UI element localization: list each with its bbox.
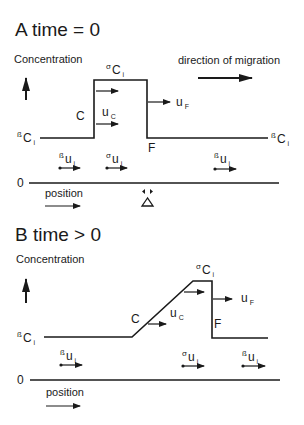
panel-b-uf-label: uF — [241, 292, 254, 304]
panel-a-alpha-ui-label: σui — [106, 153, 122, 165]
panel-b-alpha-ci-label: σCi — [196, 264, 214, 276]
panel-a-x-axis-label: position — [45, 188, 83, 199]
panel-b-c-label: C — [131, 313, 140, 325]
panel-a-zero-label: 0 — [17, 177, 24, 189]
panel-a-f-label: F — [148, 142, 155, 154]
panel-b-zero-label: 0 — [17, 374, 24, 386]
panel-a-uc-label: uC — [102, 106, 116, 118]
panel-a-alpha-ci-label: σCi — [106, 64, 124, 76]
panel-b-y-axis-label: Concentration — [16, 254, 85, 265]
boundary-triangle — [142, 198, 153, 206]
panel-b-uc-label: uC — [170, 307, 184, 319]
panel-b-title: B time > 0 — [15, 225, 101, 244]
panel-a-title: A time = 0 — [15, 20, 100, 39]
concentration-profile — [40, 80, 268, 138]
panel-a-beta-ci-left-label: ßCi — [17, 132, 35, 144]
panel-b-f-label: F — [214, 318, 221, 330]
panel-a-uf-label: uF — [176, 96, 189, 108]
boundary-marker-right — [150, 189, 153, 194]
panel-a-beta-ci-right-label: ßCi — [271, 133, 289, 145]
panel-a-beta-ui-left-label: ßui — [59, 153, 75, 165]
panel-b-beta-ui-right-label: ßui — [242, 351, 258, 363]
panel-b-alpha-ui-label: σui — [182, 351, 198, 363]
panel-a-c-label: C — [76, 110, 85, 122]
panel-b-beta-ui-left-label: ßui — [60, 350, 76, 362]
concentration-profile — [44, 281, 268, 338]
panel-b-x-axis-label: position — [46, 387, 84, 398]
panel-a-beta-ui-right-label: ßui — [214, 153, 230, 165]
boundary-marker-left — [142, 189, 145, 194]
panel-b-beta-ci-left-label: ßCi — [17, 332, 35, 344]
direction-of-migration-label: direction of migration — [178, 55, 280, 66]
panel-a-y-axis-label: Concentration — [14, 54, 83, 65]
